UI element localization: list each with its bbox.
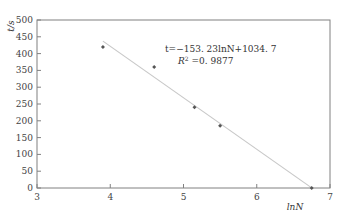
- y-tick-label: 250: [16, 99, 33, 109]
- data-point-marker: [101, 45, 105, 49]
- r-squared-label: R2 =0. 9877: [177, 55, 234, 67]
- x-tick-label: 7: [327, 192, 333, 202]
- y-tick-label: 200: [16, 116, 33, 126]
- data-point-marker: [152, 65, 156, 69]
- chart: 05010015020025030035040045050034567 t/s …: [0, 0, 345, 222]
- x-tick-label: 6: [254, 192, 260, 202]
- y-axis-title: t/s: [6, 20, 16, 32]
- r-squared-value: =0. 9877: [189, 56, 234, 66]
- y-tick-label: 0: [27, 183, 33, 193]
- y-tick-label: 50: [22, 166, 34, 176]
- y-tick-label: 150: [16, 133, 33, 143]
- y-tick-label: 100: [16, 149, 33, 159]
- x-tick-label: 4: [107, 192, 113, 202]
- y-tick-label: 500: [16, 15, 33, 25]
- y-tick-label: 350: [16, 65, 33, 75]
- y-tick-label: 300: [16, 82, 33, 92]
- x-axis-title: lnN: [287, 202, 305, 212]
- x-tick-label: 5: [181, 192, 187, 202]
- x-tick-label: 3: [34, 192, 40, 202]
- trendline-equation: t=−153. 23lnN+1034. 7: [165, 44, 277, 54]
- y-tick-label: 400: [16, 49, 33, 59]
- y-tick-label: 450: [16, 32, 33, 42]
